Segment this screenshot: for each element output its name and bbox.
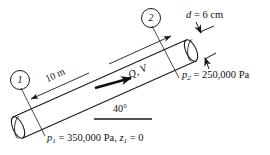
angle-label: 40° <box>113 104 127 114</box>
station-marker-2: 2 <box>141 8 161 28</box>
diameter-callout-arrow <box>196 22 214 33</box>
pressure-1-subscript: 1 <box>52 137 56 145</box>
pipe-end-lower <box>9 115 28 140</box>
station-marker-1: 1 <box>10 70 30 90</box>
flow-direction-arrow <box>95 78 131 88</box>
pressure-2-value: = 250,000 Pa <box>193 69 249 80</box>
length-dimension-line <box>31 36 171 99</box>
diameter-label: d = 6 cm <box>186 10 223 21</box>
diameter-value: = 6 cm <box>194 9 223 20</box>
elevation-1-subscript: 1 <box>124 137 128 145</box>
elevation-1-value: = 0 <box>130 132 144 143</box>
inclined-pipe-diagram: 1 2 d = 6 cm 10 m Q, V 40° p2 = 250,000 … <box>0 0 270 155</box>
pressure-2-label: p2 = 250,000 Pa <box>182 70 249 82</box>
station-2-leader <box>152 26 179 78</box>
pressure-2-subscript: 2 <box>187 74 191 82</box>
pressure-1-label: p1 = 350,000 Pa, z1 = 0 <box>47 133 144 145</box>
pressure-1-value: = 350,000 Pa, <box>58 132 116 143</box>
diameter-lower-callout-arrow <box>205 53 216 69</box>
pipe-body <box>9 38 201 140</box>
pipe-end-upper <box>182 38 201 63</box>
diameter-symbol: d <box>186 9 191 20</box>
